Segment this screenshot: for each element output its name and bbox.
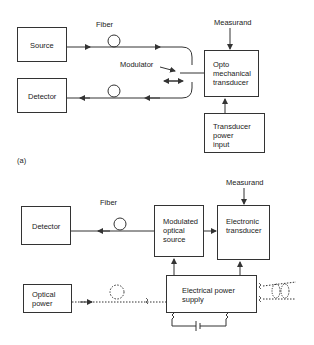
- fiber-label-b: Fiber: [100, 198, 117, 207]
- detector-box-a: Detector: [17, 78, 67, 113]
- measurand-label-a: Measurand: [214, 18, 252, 27]
- modulator-label: Modulator: [120, 60, 153, 69]
- electrical-power-supply-box: Electrical power supply: [166, 275, 257, 313]
- transducer-power-input-box: Transducer power input: [204, 113, 265, 153]
- figure-label-a: (a): [17, 156, 26, 165]
- optical-power-box: Optical power: [23, 284, 72, 313]
- modulated-optical-source-box: Modulated optical source: [154, 205, 204, 257]
- measurand-label-b: Measurand: [226, 178, 264, 187]
- fiber-label-a: Fiber: [96, 20, 113, 29]
- detector-box-b: Detector: [21, 206, 71, 245]
- source-box: Source: [17, 27, 67, 62]
- opto-mechanical-transducer-box: Opto mechanical transducer: [204, 50, 259, 97]
- electronic-transducer-box: Electronic transducer: [217, 205, 270, 260]
